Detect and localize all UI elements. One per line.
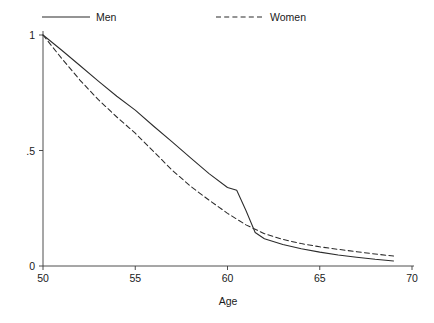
y-axis-ticks: 0.51 — [26, 29, 43, 272]
x-axis-ticks: 5055606570 — [37, 266, 418, 284]
y-tick-label: 1 — [29, 29, 35, 41]
chart-plot-area: 0.51 5055606570 Age — [0, 0, 434, 323]
x-tick-label: 65 — [314, 272, 326, 284]
series-line-women — [43, 35, 394, 256]
x-axis-title: Age — [219, 295, 238, 307]
data-series-group — [43, 35, 394, 261]
chart-figure: Men Women 0.51 5055606570 Age — [0, 0, 434, 323]
x-tick-label: 50 — [37, 272, 49, 284]
x-tick-label: 70 — [406, 272, 418, 284]
x-tick-label: 55 — [129, 272, 141, 284]
x-axis: 5055606570 Age — [37, 266, 418, 307]
y-tick-label: .5 — [26, 145, 35, 157]
y-axis: 0.51 — [26, 29, 43, 272]
y-tick-label: 0 — [29, 260, 35, 272]
series-line-men — [43, 35, 394, 261]
x-tick-label: 60 — [222, 272, 234, 284]
